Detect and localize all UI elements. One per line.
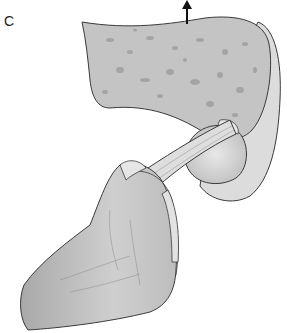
anatomical-illustration bbox=[0, 0, 287, 333]
lower-bone bbox=[21, 161, 179, 330]
upper-bone bbox=[82, 17, 280, 201]
